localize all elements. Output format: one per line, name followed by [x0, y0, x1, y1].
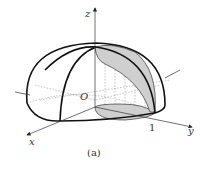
figure-caption: (a) [87, 147, 101, 158]
z-axis-label: z [84, 8, 91, 19]
y-axis-back [165, 70, 180, 78]
origin-label: O [80, 91, 88, 102]
x-axis-back [15, 92, 30, 95]
y-axis-label: y [187, 125, 194, 136]
meridian-xz [60, 47, 96, 121]
hemisphere-diagram: z x y O 1 (a) [0, 0, 211, 170]
x-axis-label: x [29, 136, 35, 147]
y-tick-label: 1 [149, 122, 155, 133]
